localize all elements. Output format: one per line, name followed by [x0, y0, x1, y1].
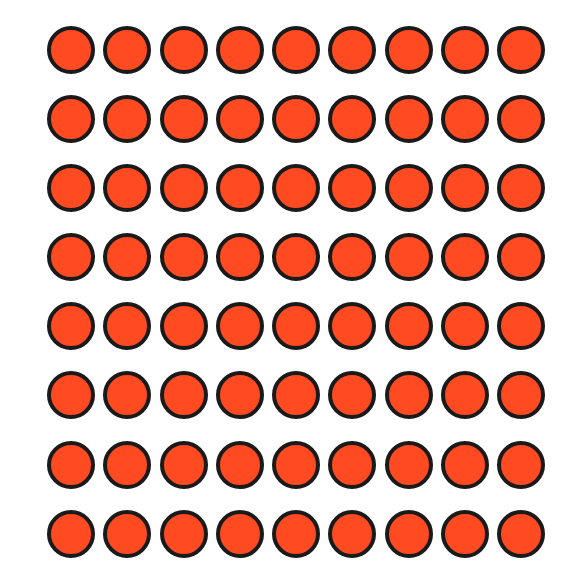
circle-icon — [385, 302, 433, 350]
circle-icon — [272, 26, 320, 74]
circle-icon — [441, 233, 489, 281]
circle-icon — [272, 441, 320, 489]
circle-icon — [103, 510, 151, 558]
circle-icon — [272, 233, 320, 281]
circle-icon — [47, 302, 95, 350]
circle-icon — [328, 371, 376, 419]
circle-icon — [160, 371, 208, 419]
dot-grid-figure — [0, 0, 577, 587]
circle-icon — [160, 95, 208, 143]
circle-icon — [47, 441, 95, 489]
circle-icon — [385, 26, 433, 74]
circle-icon — [216, 95, 264, 143]
circle-icon — [441, 26, 489, 74]
circle-icon — [272, 164, 320, 212]
circle-icon — [160, 302, 208, 350]
circle-icon — [328, 233, 376, 281]
circle-icon — [497, 233, 545, 281]
circle-icon — [328, 164, 376, 212]
circle-icon — [385, 233, 433, 281]
circle-icon — [47, 26, 95, 74]
circle-icon — [497, 441, 545, 489]
circle-icon — [216, 164, 264, 212]
circle-grid — [47, 26, 545, 558]
circle-icon — [385, 164, 433, 212]
circle-icon — [216, 510, 264, 558]
circle-icon — [103, 26, 151, 74]
circle-icon — [441, 164, 489, 212]
circle-icon — [385, 510, 433, 558]
circle-icon — [441, 95, 489, 143]
circle-icon — [497, 164, 545, 212]
circle-icon — [385, 441, 433, 489]
circle-icon — [103, 164, 151, 212]
circle-icon — [216, 26, 264, 74]
circle-icon — [441, 371, 489, 419]
circle-icon — [328, 95, 376, 143]
circle-icon — [103, 441, 151, 489]
circle-icon — [216, 302, 264, 350]
circle-icon — [160, 441, 208, 489]
circle-icon — [47, 233, 95, 281]
circle-icon — [441, 510, 489, 558]
circle-icon — [328, 26, 376, 74]
circle-icon — [272, 302, 320, 350]
circle-icon — [216, 233, 264, 281]
circle-icon — [497, 302, 545, 350]
circle-icon — [497, 95, 545, 143]
circle-icon — [328, 302, 376, 350]
circle-icon — [497, 371, 545, 419]
circle-icon — [47, 510, 95, 558]
circle-icon — [272, 95, 320, 143]
circle-icon — [216, 441, 264, 489]
circle-icon — [47, 95, 95, 143]
circle-icon — [103, 302, 151, 350]
circle-icon — [385, 95, 433, 143]
circle-icon — [497, 26, 545, 74]
circle-icon — [497, 510, 545, 558]
circle-icon — [385, 371, 433, 419]
circle-icon — [272, 371, 320, 419]
circle-icon — [103, 95, 151, 143]
circle-icon — [272, 510, 320, 558]
circle-icon — [328, 510, 376, 558]
circle-icon — [103, 233, 151, 281]
circle-icon — [328, 441, 376, 489]
circle-icon — [47, 164, 95, 212]
circle-icon — [160, 510, 208, 558]
circle-icon — [47, 371, 95, 419]
circle-icon — [441, 302, 489, 350]
circle-icon — [441, 441, 489, 489]
circle-icon — [216, 371, 264, 419]
circle-icon — [160, 164, 208, 212]
circle-icon — [160, 26, 208, 74]
circle-icon — [103, 371, 151, 419]
circle-icon — [160, 233, 208, 281]
